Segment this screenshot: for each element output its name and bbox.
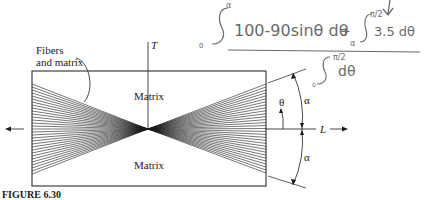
left-load-arrow-icon [5,127,24,132]
arc-arrowhead-mid-upper [300,123,304,128]
integral-1-integrand: 100-90sinθ dθ [234,21,348,40]
integral-1-lower: 0 [199,42,203,50]
fiber-line [148,129,266,152]
transverse-axis-label: T [151,39,158,51]
fiber-line [148,84,266,129]
fiber-line [32,129,148,174]
integral-2-integrand: 3.5 dθ [374,24,415,39]
integral-sign-1 [212,8,228,44]
theta-label: θ [279,96,284,108]
integral-2-upper: π/2 [370,10,383,19]
fiber-line [32,102,148,129]
fiber-line [148,90,266,129]
matrix-label-bottom: Matrix [134,159,164,171]
fibers-label-line1: Fibers [36,44,64,56]
fraction-bar [228,50,420,52]
integral-2-lower: α [350,39,355,48]
arc-arrowhead-bottom [291,179,296,185]
fiber-line [32,129,148,153]
fiber-line [148,105,266,129]
integral-1-upper: α [226,1,231,10]
arc-arrowhead-mid-lower [300,130,304,135]
denominator: 0 π/2 dθ [312,53,355,88]
matrix-label-top: Matrix [134,90,164,102]
integral-sign-3 [317,57,330,84]
integral-3-integrand: dθ [338,63,355,79]
handwritten-formula: 0 α 100-90sinθ dθ + α π/2 3.5 dθ 0 π/2 d… [199,0,420,88]
theta-arrowhead [279,108,283,113]
right-load-arrow-icon [330,127,348,132]
fiber-line [148,114,266,129]
integral-3-lower: 0 [312,81,316,88]
fiber-line [148,129,266,170]
alpha-label-lower: α [304,151,310,163]
figure-canvas: 0 α 100-90sinθ dθ + α π/2 3.5 dθ 0 π/2 d… [0,0,430,200]
figure-caption: FIGURE 6.30 [2,189,61,200]
fiber-line [32,105,148,129]
annotation-arrow-icon [383,0,393,15]
alpha-label-upper: α [304,94,310,106]
numerator: 0 α 100-90sinθ dθ + α π/2 3.5 dθ [199,0,415,50]
lower-angle-extension [268,176,306,188]
plus-sign: + [340,24,351,39]
fiber-line [32,129,148,156]
fiber-line [148,102,266,129]
integral-3-upper: π/2 [333,53,346,62]
fiber-line [148,129,266,164]
fiber-line [148,129,266,149]
fiber-line [32,84,148,129]
upper-angle-extension [268,69,306,83]
longitudinal-axis-label: L [319,123,326,135]
